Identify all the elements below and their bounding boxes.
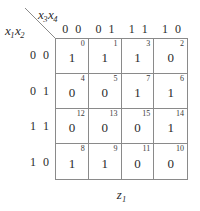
minterm-index: 0 (81, 39, 85, 49)
minterm-index: 14 (176, 109, 184, 119)
cell-value: 0 (154, 156, 187, 169)
output-function-sub: 1 (122, 194, 126, 204)
output-function-label: z1 (55, 188, 188, 201)
cell-value: 0 (89, 86, 121, 99)
minterm-index: 3 (146, 39, 150, 49)
column-header-3: 1 0 (155, 22, 188, 37)
cell-value: 0 (154, 51, 187, 64)
row-header-1: 0 1 (18, 74, 51, 110)
cell-value: 1 (89, 156, 121, 169)
minterm-index: 2 (180, 39, 184, 49)
minterm-index: 13 (110, 109, 118, 119)
kmap-cell[interactable]: 5 0 (89, 74, 122, 109)
kmap-cell[interactable]: 15 0 (122, 109, 155, 144)
row-header-0: 0 0 (18, 38, 51, 74)
kmap-cell[interactable]: 14 1 (154, 109, 187, 144)
kmap-cell[interactable]: 2 0 (154, 39, 187, 74)
minterm-index: 9 (114, 144, 118, 154)
kmap-cell[interactable]: 8 1 (56, 144, 89, 179)
column-header-0: 0 0 (55, 22, 88, 37)
row-variable-sub-1: 1 (10, 30, 14, 40)
row-header-3: 1 0 (18, 145, 51, 181)
kmap-cell[interactable]: 6 1 (154, 74, 187, 109)
kmap-cell[interactable]: 11 0 (122, 144, 155, 179)
kmap-cell[interactable]: 3 1 (122, 39, 155, 74)
column-variable-label: x3x4 (38, 8, 58, 21)
cell-value: 0 (122, 156, 154, 169)
row-header-column: 0 0 0 1 1 1 1 0 (18, 38, 51, 180)
cell-value: 0 (122, 121, 154, 134)
kmap-cell[interactable]: 10 0 (154, 144, 187, 179)
minterm-index: 5 (114, 74, 118, 84)
cell-value: 1 (56, 51, 88, 64)
cell-value: 0 (89, 121, 121, 134)
kmap-cell[interactable]: 0 1 (56, 39, 89, 74)
minterm-index: 15 (142, 109, 150, 119)
cell-value: 1 (122, 86, 154, 99)
kmap-cell[interactable]: 13 0 (89, 109, 122, 144)
kmap-cell[interactable]: 4 0 (56, 74, 89, 109)
minterm-index: 11 (143, 144, 151, 154)
column-header-1: 0 1 (88, 22, 121, 37)
cell-value: 1 (56, 156, 88, 169)
cell-value: 1 (122, 51, 154, 64)
karnaugh-map-grid: 0 1 1 1 3 1 2 0 4 0 5 0 7 1 6 1 (55, 38, 188, 180)
minterm-index: 12 (77, 109, 85, 119)
cell-value: 1 (154, 86, 187, 99)
cell-value: 0 (56, 121, 88, 134)
minterm-index: 8 (81, 144, 85, 154)
column-header-2: 1 1 (122, 22, 155, 37)
kmap-cell[interactable]: 12 0 (56, 109, 89, 144)
minterm-index: 7 (146, 74, 150, 84)
cell-value: 1 (89, 51, 121, 64)
kmap-cell[interactable]: 9 1 (89, 144, 122, 179)
minterm-index: 10 (176, 144, 184, 154)
minterm-index: 4 (81, 74, 85, 84)
column-variable-sub-1: 3 (43, 14, 47, 24)
minterm-index: 1 (114, 39, 118, 49)
kmap-cell[interactable]: 7 1 (122, 74, 155, 109)
kmap-cell[interactable]: 1 1 (89, 39, 122, 74)
row-header-2: 1 1 (18, 109, 51, 145)
minterm-index: 6 (180, 74, 184, 84)
karnaugh-map-figure: x3x4 x1x2 0 0 0 1 1 1 1 0 0 0 0 1 1 1 1 … (0, 0, 200, 211)
cell-value: 1 (154, 121, 187, 134)
row-variable-label: x1x2 (5, 24, 25, 37)
cell-value: 0 (56, 86, 88, 99)
column-header-row: 0 0 0 1 1 1 1 0 (55, 22, 188, 37)
